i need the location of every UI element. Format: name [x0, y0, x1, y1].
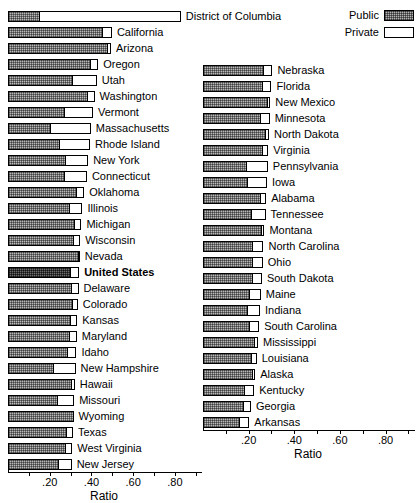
- bar-row[interactable]: Louisiana: [203, 350, 413, 366]
- bar-category-label: Wyoming: [79, 411, 125, 422]
- bar-category-label: Michigan: [86, 219, 130, 230]
- axis-minor-tick: [29, 472, 30, 476]
- bar-track: [8, 43, 111, 54]
- bar-category-label: Colorado: [83, 299, 128, 310]
- bar-segment-public: [8, 187, 77, 198]
- bar-row[interactable]: Wyoming: [8, 408, 200, 424]
- bar-row[interactable]: California: [8, 24, 200, 40]
- bar-row[interactable]: Maine: [203, 286, 413, 302]
- bar-row[interactable]: Colorado: [8, 296, 200, 312]
- right-x-axis: .20.40.60.80Ratio: [203, 430, 413, 460]
- bar-row[interactable]: Georgia: [203, 398, 413, 414]
- bar-segment-public: [203, 401, 244, 412]
- bar-row[interactable]: Montana: [203, 222, 413, 238]
- axis-minor-tick: [226, 430, 227, 434]
- bar-segment-public: [203, 145, 263, 156]
- bar-row[interactable]: Florida: [203, 78, 413, 94]
- bar-row[interactable]: Missouri: [8, 392, 200, 408]
- bar-row[interactable]: South Dakota: [203, 270, 413, 286]
- bar-row[interactable]: Delaware: [8, 280, 200, 296]
- bar-row[interactable]: Kansas: [8, 312, 200, 328]
- bar-track: [203, 385, 254, 396]
- bar-row[interactable]: Minnesota: [203, 110, 413, 126]
- bar-track: [8, 299, 78, 310]
- bar-segment-private: [265, 129, 269, 140]
- bar-row[interactable]: Illinois: [8, 200, 200, 216]
- bar-segment-private: [252, 369, 255, 380]
- bar-row[interactable]: Ohio: [203, 254, 413, 270]
- bar-category-label: Mississippi: [263, 337, 316, 348]
- bar-track: [203, 65, 272, 76]
- bar-row[interactable]: Washington: [8, 88, 200, 104]
- bar-row[interactable]: New Hampshire: [8, 360, 200, 376]
- bar-row[interactable]: Mississippi: [203, 334, 413, 350]
- bar-row[interactable]: Rhode Island: [8, 136, 200, 152]
- bar-row[interactable]: West Virginia: [8, 440, 200, 456]
- bar-category-label: Massachusetts: [96, 123, 169, 134]
- bar-segment-public: [203, 241, 253, 252]
- bar-category-label: Arkansas: [254, 417, 300, 428]
- bar-row[interactable]: Oregon: [8, 56, 200, 72]
- left-bar-list: District of ColumbiaCaliforniaArizonaOre…: [8, 8, 200, 472]
- bar-category-label: Oklahoma: [89, 187, 139, 198]
- bar-row[interactable]: District of Columbia: [8, 8, 200, 24]
- bar-segment-public: [8, 315, 71, 326]
- bar-row[interactable]: Iowa: [203, 174, 413, 190]
- bar-segment-private: [64, 171, 87, 182]
- bar-row[interactable]: Utah: [8, 72, 200, 88]
- bar-track: [203, 273, 262, 284]
- bar-row[interactable]: Hawaii: [8, 376, 200, 392]
- bar-row[interactable]: New York: [8, 152, 200, 168]
- bar-row[interactable]: Massachusetts: [8, 120, 200, 136]
- bar-row[interactable]: New Jersey: [8, 456, 200, 472]
- bar-segment-private: [263, 65, 272, 76]
- bar-row[interactable]: Nebraska: [203, 62, 413, 78]
- bar-category-label: New Mexico: [275, 97, 335, 108]
- bar-row[interactable]: Tennessee: [203, 206, 413, 222]
- bar-row[interactable]: Kentucky: [203, 382, 413, 398]
- bar-segment-private: [69, 203, 83, 214]
- bar-row[interactable]: North Dakota: [203, 126, 413, 142]
- bar-category-label: Maryland: [82, 331, 127, 342]
- bar-track: [8, 203, 83, 214]
- bar-segment-private: [74, 219, 81, 230]
- bar-category-label: Rhode Island: [95, 139, 160, 150]
- bar-row[interactable]: Connecticut: [8, 168, 200, 184]
- bar-segment-private: [87, 91, 94, 102]
- bar-segment-private: [66, 427, 73, 438]
- bar-row[interactable]: Texas: [8, 424, 200, 440]
- bar-category-label: Kansas: [82, 315, 119, 326]
- axis-title: Ratio: [90, 490, 118, 502]
- bar-row[interactable]: Arizona: [8, 40, 200, 56]
- bar-row[interactable]: United States: [8, 264, 200, 280]
- bar-segment-private: [73, 235, 80, 246]
- bar-row[interactable]: North Carolina: [203, 238, 413, 254]
- bar-segment-private: [262, 145, 268, 156]
- bar-row[interactable]: Oklahoma: [8, 184, 200, 200]
- bar-row[interactable]: Pennsylvania: [203, 158, 413, 174]
- bar-segment-private: [267, 97, 271, 108]
- bar-row[interactable]: Wisconsin: [8, 232, 200, 248]
- bar-row[interactable]: Michigan: [8, 216, 200, 232]
- bar-row[interactable]: New Mexico: [203, 94, 413, 110]
- bar-segment-public: [203, 417, 240, 428]
- bar-row[interactable]: Virginia: [203, 142, 413, 158]
- bar-row[interactable]: Alabama: [203, 190, 413, 206]
- bar-segment-private: [244, 385, 254, 396]
- bar-row[interactable]: Maryland: [8, 328, 200, 344]
- bar-row[interactable]: Arkansas: [203, 414, 413, 430]
- bar-row[interactable]: Idaho: [8, 344, 200, 360]
- bar-row[interactable]: Nevada: [8, 248, 200, 264]
- bar-row[interactable]: Indiana: [203, 302, 413, 318]
- bar-row[interactable]: Alaska: [203, 366, 413, 382]
- bar-category-label: New Jersey: [77, 459, 134, 470]
- bar-segment-private: [90, 59, 99, 70]
- bar-segment-public: [8, 347, 68, 358]
- axis-minor-tick: [271, 430, 272, 434]
- bar-category-label: Oregon: [103, 59, 140, 70]
- bar-row[interactable]: Vermont: [8, 104, 200, 120]
- legend-label-public: Public: [349, 10, 379, 21]
- bar-row[interactable]: South Carolina: [203, 318, 413, 334]
- bar-segment-private: [252, 257, 263, 268]
- bar-category-label: Alaska: [260, 369, 293, 380]
